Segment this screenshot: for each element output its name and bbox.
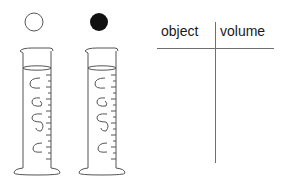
graduated-cylinder-left <box>14 48 60 175</box>
white-sphere-icon <box>25 13 43 31</box>
table-header-object: object <box>161 23 198 39</box>
table-column-divider <box>215 22 216 163</box>
black-sphere-icon <box>90 13 108 31</box>
experiment-figure <box>0 0 160 188</box>
graduated-cylinder-right <box>79 48 125 175</box>
table-header-volume: volume <box>220 23 265 39</box>
